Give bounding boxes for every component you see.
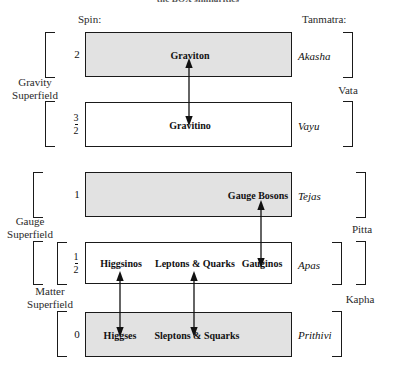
- susy-arrows-group: [0, 0, 396, 375]
- susy-arrow-higgsino-higgs: [116, 271, 123, 337]
- susy-arrow-lepton-slepton: [190, 271, 197, 337]
- susy-arrow-graviton-gravitino: [185, 58, 192, 126]
- susy-arrow-gaugeboson-gaugino: [257, 200, 264, 268]
- supersymmetry-ayurveda-diagram: the BOX similarities Spin: Tanmatra: Gra…: [0, 0, 396, 375]
